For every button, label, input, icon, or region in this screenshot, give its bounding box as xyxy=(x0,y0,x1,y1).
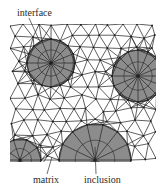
mesh-edge xyxy=(115,24,123,35)
mesh-node xyxy=(113,65,115,67)
mesh-node xyxy=(59,40,61,42)
mesh-node xyxy=(102,194,104,196)
mesh-edge xyxy=(131,146,135,160)
mesh-edge xyxy=(89,24,96,35)
mesh-edge xyxy=(89,35,94,47)
mesh-edge xyxy=(156,58,162,67)
mesh-node xyxy=(94,71,96,73)
mesh-edge xyxy=(103,99,110,111)
mesh-edge xyxy=(15,36,33,37)
mesh-node xyxy=(47,155,49,157)
mesh-node xyxy=(85,107,87,109)
mesh-edge xyxy=(135,146,146,159)
mesh-edge xyxy=(107,122,121,123)
mesh-edge xyxy=(107,24,123,25)
mesh-edge xyxy=(86,108,88,125)
mesh-node xyxy=(28,71,30,73)
mesh-edge xyxy=(82,75,88,87)
mesh-node xyxy=(136,23,138,25)
mesh-edge xyxy=(137,24,144,38)
mesh-edge xyxy=(15,135,33,136)
mesh-edge xyxy=(66,109,74,122)
mesh-node xyxy=(144,159,146,161)
mesh-edge xyxy=(47,122,53,135)
mesh-edge xyxy=(24,46,34,47)
mesh-node xyxy=(151,25,153,27)
mesh-node xyxy=(37,94,39,96)
mesh-node xyxy=(26,62,28,64)
mesh-node xyxy=(127,51,129,53)
mesh-edge xyxy=(10,24,23,26)
mesh-edge xyxy=(33,37,34,46)
mesh-edge xyxy=(86,99,96,108)
mesh-edge xyxy=(81,121,87,125)
inclusion-center-node xyxy=(93,158,96,161)
mesh-edge xyxy=(81,108,85,121)
mesh-node xyxy=(161,65,163,67)
mesh-edge xyxy=(96,87,99,99)
mesh-edge xyxy=(107,35,114,48)
mesh-edge xyxy=(100,48,107,60)
mesh-edge xyxy=(60,85,70,87)
mesh-edge xyxy=(117,123,120,132)
mesh-node xyxy=(150,120,152,122)
mesh-node xyxy=(66,23,68,25)
mesh-edge xyxy=(103,188,117,195)
mesh-edge xyxy=(96,99,104,112)
mesh-node xyxy=(11,123,13,125)
mesh-node xyxy=(72,71,74,73)
mesh-edge xyxy=(66,122,72,132)
mesh-edge xyxy=(107,48,121,49)
mesh-node xyxy=(65,121,67,123)
mesh-edge xyxy=(145,158,156,159)
mesh-edge xyxy=(94,47,108,48)
mesh-node xyxy=(155,109,157,111)
inclusion-label: inclusion xyxy=(84,174,121,185)
mesh-node xyxy=(111,75,113,77)
mesh-node xyxy=(134,145,136,147)
mesh-edge xyxy=(111,99,116,111)
mesh-node xyxy=(59,108,61,110)
mesh-edge xyxy=(137,24,152,26)
mesh-node xyxy=(103,111,105,113)
matrix-mesh xyxy=(0,24,164,195)
mesh-edge xyxy=(94,35,100,47)
mesh-edge xyxy=(16,109,24,120)
mesh-edge xyxy=(127,131,128,144)
matrix-label: matrix xyxy=(33,174,59,185)
mesh-edge xyxy=(37,147,53,148)
mesh-node xyxy=(26,139,28,141)
mesh-edge xyxy=(10,36,15,48)
mesh-node xyxy=(72,187,74,189)
mesh-node xyxy=(161,85,163,87)
mesh-node xyxy=(148,143,150,145)
mesh-edge xyxy=(38,120,47,135)
mesh-node xyxy=(41,40,43,42)
mesh-edge xyxy=(0,148,3,160)
mesh-node xyxy=(81,74,83,76)
mesh-edge xyxy=(25,98,33,109)
mesh-edge xyxy=(115,35,122,48)
mesh-edge xyxy=(148,35,155,52)
mesh-edge xyxy=(156,76,164,94)
mesh-node xyxy=(32,135,34,137)
mesh-node xyxy=(52,146,54,148)
mesh-node xyxy=(17,83,19,85)
mesh-node xyxy=(119,57,121,59)
mesh-node xyxy=(154,34,156,36)
mesh-edge xyxy=(107,111,116,122)
mesh-node xyxy=(117,187,119,189)
mesh-node xyxy=(87,59,89,61)
mesh-node xyxy=(105,71,107,73)
mesh-edge xyxy=(66,121,81,122)
mesh-node xyxy=(120,48,122,50)
mesh-node xyxy=(99,59,101,61)
mesh-edge xyxy=(80,47,87,60)
mesh-node xyxy=(70,86,72,88)
mesh-edge xyxy=(86,108,96,119)
mesh-node xyxy=(52,121,54,123)
mesh-node xyxy=(40,145,42,147)
mesh-node xyxy=(60,130,62,132)
mesh-node xyxy=(130,36,132,38)
mesh-edge xyxy=(33,95,38,110)
